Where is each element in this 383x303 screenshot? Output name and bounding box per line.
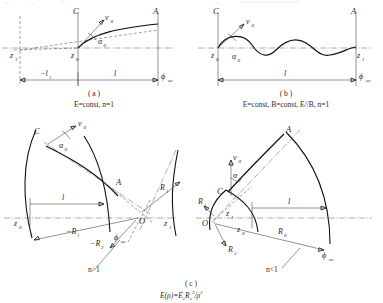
panel-a-z0-sub: 0 bbox=[76, 57, 79, 62]
panel-c-left-phi-sub: ac bbox=[121, 239, 127, 244]
panel-a-alpha-label: α bbox=[98, 37, 103, 46]
panel-b-v0-label: v bbox=[246, 17, 250, 26]
panel-c-left-plate-a-label: A bbox=[115, 177, 122, 187]
panel-b-condition: E=const, B=const, E//B, n=1 bbox=[243, 100, 330, 109]
panel-b-caption: ( b ) bbox=[280, 89, 293, 98]
panel-a-v0-sub: 0 bbox=[111, 19, 114, 24]
panel-c-left-cathode-arc bbox=[25, 130, 36, 238]
panel-c-right-r1-label: R bbox=[197, 197, 203, 206]
panel-a-phi-sub: ac bbox=[168, 78, 174, 83]
panel-c-right-origin-label: O bbox=[202, 218, 208, 228]
formula-sub2: c bbox=[190, 296, 193, 301]
formula-main: E(ρ)=E bbox=[159, 291, 183, 300]
panel-c-right-l-label: l bbox=[288, 197, 291, 206]
panel-b-alpha-label: α bbox=[232, 52, 237, 61]
panel-c-left-r2-sub: 2 bbox=[101, 245, 104, 250]
panel-c-caption: ( c ) bbox=[185, 279, 198, 288]
panel-c-right-regime-leader bbox=[282, 248, 300, 268]
panel-c-right-r2-sub: 2 bbox=[234, 251, 237, 256]
panel-a-plate-c-label: C bbox=[73, 6, 79, 16]
figure-canvas: v 0 α 0 C A z 0 z 1 −l 1 l ϕ ac ( a ) E=… bbox=[0, 0, 383, 303]
panel-c-left-origin-label: O bbox=[139, 216, 145, 226]
panel-b-trajectory bbox=[218, 36, 356, 55]
panel-c-left-outer-arc bbox=[172, 150, 178, 236]
panel-b: v 0 α 0 C A z 0 z 1 l ϕ ac ( b ) E=const… bbox=[198, 6, 372, 109]
panel-c-caption-group: ( c ) E(ρ)=EcRc2/ρ2 bbox=[159, 279, 203, 301]
panel-c-left-plate-c-label: C bbox=[34, 126, 40, 136]
panel-a-asymptote bbox=[14, 48, 78, 50]
panel-c-left-v0-label: v bbox=[78, 119, 82, 128]
panel-c-right-v0-label: v bbox=[233, 153, 237, 162]
panel-b-z1-sub: 1 bbox=[362, 57, 365, 62]
panel-a-v0-label: v bbox=[105, 13, 109, 22]
panel-c-left-alpha-label: α bbox=[59, 141, 64, 150]
panel-c-right-v0-sub: 0 bbox=[239, 159, 242, 164]
panel-c-left-z0-sub: 0 bbox=[19, 225, 22, 230]
panel-c-right-r0-label: R bbox=[277, 227, 283, 236]
panel-c-right-cathode-arc bbox=[210, 190, 226, 230]
formula-sup2: 2 bbox=[200, 290, 203, 295]
panel-c-right-alpha-label: α bbox=[233, 171, 238, 180]
panel-b-v0-sub: 0 bbox=[252, 23, 255, 28]
panel-b-plate-c-label: C bbox=[213, 6, 219, 16]
panel-a-z1-label: z bbox=[9, 51, 14, 60]
panel-c-right-z0-sub: 0 bbox=[242, 231, 245, 236]
top-cropped-text bbox=[4, 1, 300, 6]
panel-c-right-plate-a-label: A bbox=[285, 124, 292, 134]
physics-trajectory-figure: v 0 α 0 C A z 0 z 1 −l 1 l ϕ ac ( a ) E=… bbox=[0, 0, 383, 303]
panel-c-left-v0-sub: 0 bbox=[84, 125, 87, 130]
panel-a-z0-label: z bbox=[70, 51, 75, 60]
panel-c-left: v 0 α 0 C A l z 0 z 1 O −R 1 −R 2 R 1 bbox=[4, 119, 180, 274]
panel-b-l-label: l bbox=[284, 69, 287, 78]
panel-b-z1-label: z bbox=[356, 51, 361, 60]
panel-c-left-r1-arrowhead bbox=[34, 236, 39, 240]
panel-c-right-phi-sub: ac bbox=[329, 257, 335, 262]
panel-c-right-trajectory bbox=[228, 134, 284, 192]
panel-c-left-r1-label: −R bbox=[66, 227, 76, 236]
panel-c-left-z1-sub: 1 bbox=[169, 225, 172, 230]
panel-a-caption: ( a ) bbox=[88, 89, 101, 98]
panel-c-left-z1-label: z bbox=[163, 219, 168, 228]
panel-c-right-regime-label: n<1 bbox=[266, 265, 278, 274]
panel-c-left-r1-arrow bbox=[34, 218, 138, 240]
panel-c-right-z1-sub: 1 bbox=[231, 215, 234, 220]
panel-c-right-r0-sub: 0 bbox=[284, 233, 287, 238]
panel-a-alpha-sub: 0 bbox=[104, 43, 107, 48]
panel-a: v 0 α 0 C A z 0 z 1 −l 1 l ϕ ac ( a ) E=… bbox=[2, 6, 175, 109]
panel-a-z1-sub: 1 bbox=[15, 57, 18, 62]
panel-a-trajectory bbox=[78, 24, 158, 48]
panel-c-right-r2-label: R bbox=[227, 245, 233, 254]
panel-b-plate-a-label: A bbox=[350, 6, 357, 16]
panel-c-left-r2-label: −R bbox=[90, 239, 100, 248]
panel-c-right-r2-arrow bbox=[214, 222, 226, 246]
panel-c-left-r1-sub: 1 bbox=[77, 233, 80, 238]
panel-c-left-phi-label: ϕ bbox=[114, 233, 118, 242]
panel-c-left-regime-label: n>1 bbox=[88, 265, 100, 274]
panel-c-left-z0-label: z bbox=[13, 219, 18, 228]
panel-c-right-mid-arc bbox=[226, 190, 258, 232]
panel-c-right-r2-arrowhead bbox=[222, 241, 226, 246]
panel-c-left-trajectory bbox=[46, 146, 118, 196]
panel-b-z0-sub: 0 bbox=[216, 57, 219, 62]
panel-c-right-plate-c-label: C bbox=[217, 186, 223, 196]
panel-c-right-z1-label: z bbox=[225, 209, 230, 218]
panel-c-left-l-label: l bbox=[62, 193, 65, 202]
panel-b-phi-label: ϕ bbox=[359, 72, 363, 81]
panel-a-l-label: l bbox=[114, 69, 117, 78]
panel-b-z0-label: z bbox=[210, 51, 215, 60]
panel-c-left-r3-label: R bbox=[159, 183, 165, 192]
panel-c-left-r3-sub: 1 bbox=[166, 189, 169, 194]
panel-a-plate-a-label: A bbox=[152, 6, 159, 16]
panel-a-condition: E=const, n=1 bbox=[74, 100, 114, 109]
panel-c-right-outer-arc bbox=[286, 132, 330, 244]
panel-c-right-r1-sub: 1 bbox=[204, 203, 207, 208]
panel-a-neg-l-label: −l bbox=[40, 69, 48, 78]
panel-b-alpha-sub: 0 bbox=[238, 58, 241, 63]
panel-b-phi-sub: ac bbox=[366, 78, 372, 83]
panel-a-phi-label: ϕ bbox=[161, 72, 165, 81]
panel-c-formula: E(ρ)=EcRc2/ρ2 bbox=[159, 290, 203, 301]
panel-c-left-alpha-sub: 0 bbox=[65, 147, 68, 152]
panel-c-right: v 0 α 0 C A l O z 1 z 0 R 1 R 2 R 0 bbox=[196, 124, 372, 274]
panel-a-neg-l-sub: 1 bbox=[49, 75, 52, 80]
panel-c-right-phi-label: ϕ bbox=[322, 251, 326, 260]
